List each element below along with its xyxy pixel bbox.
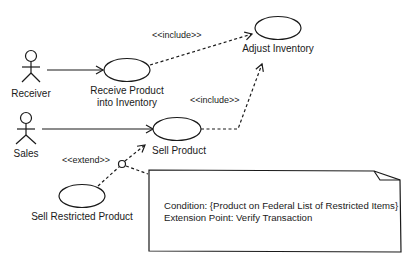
use-case-label: Sell Restricted Product [31,211,133,222]
include-stereotype-label: <<include>> [190,95,240,105]
extend-stereotype-label: <<extend>> [62,155,110,165]
actor-receiver-label: Receiver [11,88,51,99]
use-case-receive-product[interactable]: Receive Product into Inventory [90,59,164,109]
note-anchor-line [126,166,148,174]
stick-figure-icon [22,51,40,83]
note-condition-text: Condition: {Product on Federal List of R… [164,200,399,211]
actor-sales-label: Sales [13,148,38,159]
extend-restricted-sell: <<extend>> [62,145,148,186]
use-case-ellipse [104,59,150,82]
use-case-ellipse [59,185,105,208]
include-stereotype-label: <<include>> [152,30,202,40]
use-case-sell-product[interactable]: Sell Product [152,118,206,157]
stick-figure-icon [16,113,36,145]
use-case-label-line1: Receive Product [90,85,164,96]
use-case-label: Adjust Inventory [242,43,314,54]
note-extension-point-text: Extension Point: Verify Transaction [164,212,312,223]
use-case-ellipse [255,17,301,40]
use-case-diagram: Receiver Sales Receive Product into Inve… [0,0,418,262]
extension-point-circle-icon [119,161,126,168]
use-case-sell-restricted-product[interactable]: Sell Restricted Product [31,185,133,223]
use-case-ellipse [153,118,201,141]
use-case-label-line2: into Inventory [97,97,157,108]
actor-receiver[interactable]: Receiver [11,51,51,100]
actor-sales[interactable]: Sales [13,113,38,160]
use-case-adjust-inventory[interactable]: Adjust Inventory [242,17,314,55]
use-case-label: Sell Product [152,145,206,156]
include-sell-adjust: <<include>> [190,64,262,129]
note-box [149,170,401,252]
include-receive-adjust: <<include>> [150,30,252,65]
constraint-note[interactable]: Condition: {Product on Federal List of R… [149,170,401,252]
